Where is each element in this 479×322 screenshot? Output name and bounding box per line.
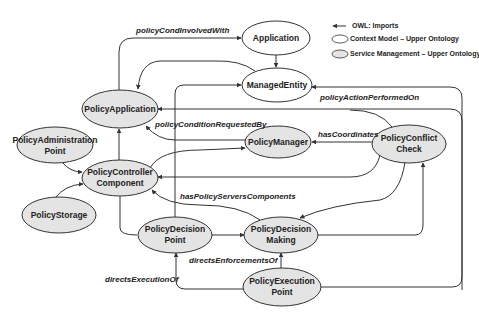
node-label: PolicyAdministration <box>12 135 97 145</box>
legend: OWL: Imports Context Model – Upper Ontol… <box>332 22 479 58</box>
edge-label-policy-action-performed-on: policyActionPerformedOn <box>319 93 419 102</box>
node-policy-decision-point[interactable]: PolicyDecision Point <box>138 217 212 253</box>
node-policy-execution-point[interactable]: PolicyExecution Point <box>243 268 321 306</box>
node-label: Point <box>271 287 292 297</box>
legend-imports: OWL: Imports <box>333 22 398 30</box>
grey-ellipse-icon <box>332 50 348 58</box>
node-policy-decision-making[interactable]: PolicyDecision Making <box>244 217 318 253</box>
legend-context-model-label: Context Model – Upper Ontology <box>350 35 459 43</box>
node-policy-conflict-check[interactable]: PolicyConflict Check <box>372 125 446 163</box>
edge-policy-action-performed-on <box>312 87 462 287</box>
node-policy-administration-point[interactable]: PolicyAdministration Point <box>12 127 97 163</box>
node-label: Application <box>253 33 299 43</box>
node-policy-manager[interactable]: PolicyManager <box>245 126 311 158</box>
node-label: Making <box>266 235 295 245</box>
edge-controller-policy-manager <box>150 148 245 168</box>
node-label: ManagedEntity <box>247 80 308 90</box>
node-policy-controller-component[interactable]: PolicyController Component <box>82 160 158 196</box>
white-ellipse-icon <box>332 35 348 43</box>
edge-label-policy-cond-involved-with: policyCondInvolvedWith <box>135 26 229 35</box>
node-label: PolicyDecision <box>145 224 205 234</box>
node-managed-entity[interactable]: ManagedEntity <box>242 68 312 102</box>
edge-conflict-check-controller <box>158 155 380 177</box>
node-label: PolicyDecision <box>251 224 311 234</box>
legend-service-management-label: Service Management – Upper Ontology <box>350 50 479 58</box>
edge-decision-making-conflict-check <box>317 163 423 235</box>
edge-conflict-check-decision-making <box>300 162 405 218</box>
node-label: PolicyStorage <box>31 210 88 220</box>
edge-label-policy-condition-requested-by: policyConditionRequestedBy <box>154 120 267 129</box>
edge-controller-decision-point <box>120 195 137 235</box>
edge-administration-point-controller <box>62 162 82 172</box>
node-label: PolicyConflict <box>381 133 438 143</box>
node-label: Check <box>396 144 422 154</box>
node-label: PolicyExecution <box>249 276 315 286</box>
legend-imports-label: OWL: Imports <box>352 22 398 30</box>
node-label: PolicyController <box>87 167 153 177</box>
node-label: Point <box>164 235 185 245</box>
edge-label-directs-enforcements-of: directsEnforcementsOf <box>189 256 279 265</box>
edge-policy-cond-involved-with <box>119 38 241 90</box>
node-policy-application[interactable]: PolicyApplication <box>82 90 158 128</box>
edge-storage-controller <box>55 184 83 198</box>
node-label: Component <box>96 178 143 188</box>
edge-conflict-check-upper-arc <box>350 110 392 127</box>
node-application[interactable]: Application <box>242 21 310 55</box>
legend-service-management: Service Management – Upper Ontology <box>332 50 479 58</box>
edge-label-has-policy-servers-components: hasPolicyServersComponents <box>180 192 296 201</box>
edge-label-has-coordinates: hasCoordinates <box>318 130 379 139</box>
edge-label-directs-execution-of: directsExecutionOf <box>105 275 180 284</box>
ontology-diagram: Application ManagedEntity PolicyApplicat… <box>0 0 479 322</box>
node-label: PolicyManager <box>248 137 309 147</box>
node-policy-storage[interactable]: PolicyStorage <box>22 197 96 233</box>
legend-context-model: Context Model – Upper Ontology <box>332 35 459 43</box>
node-label: Point <box>44 146 65 156</box>
node-label: PolicyApplication <box>84 104 155 114</box>
